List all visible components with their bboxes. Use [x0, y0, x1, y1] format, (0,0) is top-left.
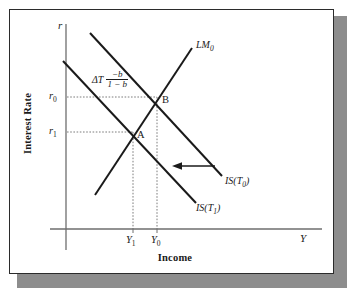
x-axis-title: Income — [120, 252, 230, 263]
multiplier-fraction: −b 1 − b — [106, 70, 128, 90]
is-t1-label-base: IS(T — [196, 202, 213, 213]
is-lm-diagram — [10, 10, 335, 275]
y-tick-r1-sub: 1 — [53, 130, 57, 139]
is-t0-curve-label: IS(T0) — [225, 175, 249, 189]
x-tick-label-y1: Y1 — [126, 234, 136, 248]
is-t0-label-base: IS(T — [225, 175, 242, 186]
x-tick-y1-sub: 1 — [132, 239, 136, 248]
y-tick-label-r0: r0 — [49, 90, 57, 104]
x-tick-label-y0: Y0 — [151, 234, 161, 248]
fraction-denominator: 1 − b — [106, 79, 128, 89]
lm0-label-sub: 0 — [210, 44, 214, 53]
point-label-b: B — [162, 94, 169, 105]
is-t0-curve — [90, 33, 222, 176]
figure-container: r Y r0 r1 Y1 Y0 LM0 IS(T0) IS(T1) A B — [0, 0, 351, 295]
y-tick-label-r1: r1 — [49, 125, 57, 139]
lm0-label-base: LM — [196, 39, 210, 50]
figure-frame: r Y r0 r1 Y1 Y0 LM0 IS(T0) IS(T1) A B — [9, 9, 334, 274]
fraction-numerator: −b — [111, 70, 124, 79]
is-t1-curve-label: IS(T1) — [196, 202, 220, 216]
is-t1-curve — [63, 61, 196, 203]
point-label-a: A — [137, 129, 145, 140]
x-tick-y0-sub: 0 — [157, 239, 161, 248]
is-t0-label-tail: ) — [246, 175, 249, 186]
lm0-curve-label: LM0 — [196, 39, 214, 53]
y-axis-title: Interest Rate — [22, 79, 33, 169]
tax-multiplier-annotation: ΔT −b 1 − b — [92, 70, 128, 90]
delta-t-symbol: ΔT — [92, 75, 103, 85]
y-axis-end-label: r — [58, 19, 62, 31]
is-t1-label-tail: ) — [217, 202, 220, 213]
y-tick-r0-sub: 0 — [53, 95, 57, 104]
is-shift-arrow — [172, 162, 215, 170]
x-axis-end-label: Y — [300, 232, 306, 244]
